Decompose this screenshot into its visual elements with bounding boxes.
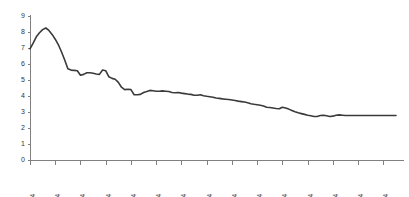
y-tick-label: 8	[21, 28, 25, 35]
y-tick-label: 4	[21, 92, 25, 99]
x-tick-label: 2005:4	[357, 194, 364, 197]
data-series-line	[30, 28, 396, 116]
x-tick-label: 1997:4	[256, 194, 263, 197]
line-chart: 01234567891979:41981:41983:41985:41987:4…	[0, 0, 409, 197]
y-tick-label: 0	[21, 156, 25, 163]
y-tick-label: 2	[21, 124, 25, 131]
x-tick-label: 1979:4	[29, 194, 36, 197]
x-tick-label: 1999:4	[281, 194, 288, 197]
x-tick-label: 2001:4	[307, 194, 314, 197]
y-tick-label: 5	[21, 76, 25, 83]
chart-canvas: 01234567891979:41981:41983:41985:41987:4…	[0, 0, 409, 197]
x-tick-label: 1993:4	[206, 194, 213, 197]
y-tick-label: 3	[21, 108, 25, 115]
x-tick-label: 1983:4	[79, 194, 86, 197]
x-tick-label: 1981:4	[54, 194, 61, 197]
y-tick-label: 9	[21, 12, 25, 19]
x-tick-label: 2007:4	[382, 194, 389, 197]
x-tick-label: 1987:4	[130, 194, 137, 197]
y-tick-label: 1	[21, 140, 25, 147]
y-tick-label: 7	[21, 44, 25, 51]
x-tick-label: 2003:4	[332, 194, 339, 197]
x-tick-label: 1995:4	[231, 194, 238, 197]
x-tick-label: 1985:4	[105, 194, 112, 197]
x-tick-label: 1991:4	[180, 194, 187, 197]
y-tick-label: 6	[21, 60, 25, 67]
x-tick-label: 1989:4	[155, 194, 162, 197]
